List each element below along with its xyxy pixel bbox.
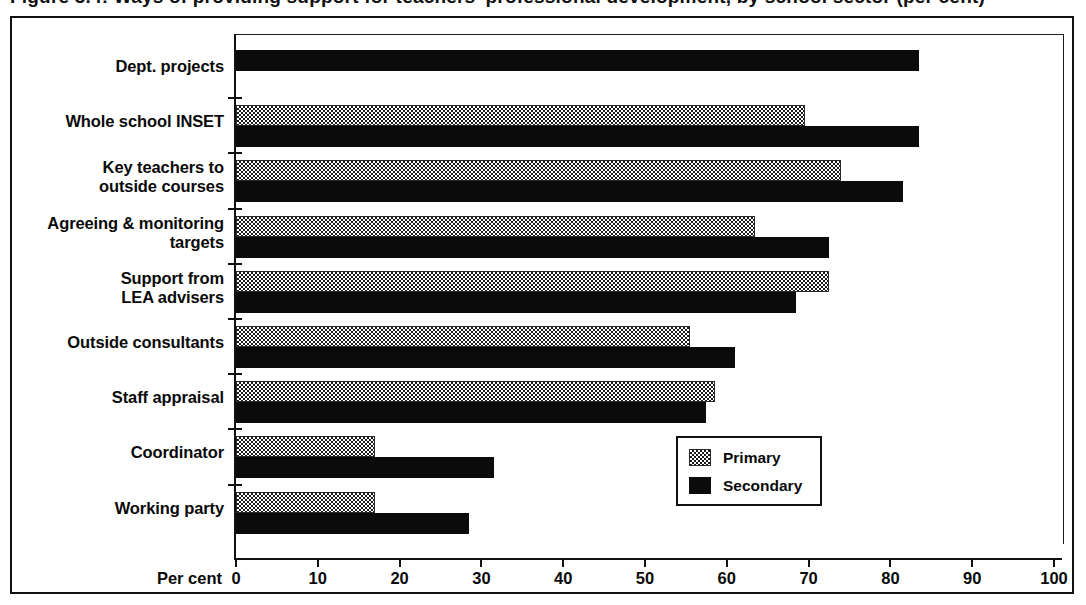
bar-group: Staff appraisal: [12, 375, 1064, 429]
x-axis-tick: [235, 558, 237, 567]
category-label: Support fromLEA advisers: [12, 269, 224, 307]
bar-group: Working party: [12, 486, 1064, 540]
bar-group: Whole school INSET: [12, 99, 1064, 153]
category-tick: [228, 97, 242, 99]
bar-group: Outside consultants: [12, 320, 1064, 374]
x-axis-tick: [808, 558, 810, 567]
category-label: Coordinator: [12, 443, 224, 462]
x-axis-tick-label: 60: [706, 569, 748, 588]
category-label: Key teachers tooutside courses: [12, 158, 224, 196]
category-label: Dept. projects: [12, 57, 224, 76]
bar-secondary: [236, 402, 706, 423]
x-axis-tick: [399, 558, 401, 567]
x-axis-tick-label: 50: [624, 569, 666, 588]
category-label-line: targets: [12, 233, 224, 252]
category-tick: [228, 208, 242, 210]
chart-legend: Primary Secondary: [676, 436, 822, 506]
x-axis-line: [234, 558, 1062, 560]
x-axis-tick: [726, 558, 728, 567]
category-label-line: Coordinator: [12, 443, 224, 462]
x-axis-tick-label: 10: [297, 569, 339, 588]
category-tick: [228, 428, 242, 430]
bar-secondary: [236, 292, 796, 313]
bar-secondary: [236, 126, 919, 147]
x-axis-tick: [889, 558, 891, 567]
bar-secondary: [236, 181, 903, 202]
x-axis-tick-label: 40: [542, 569, 584, 588]
category-label-line: Whole school INSET: [12, 112, 224, 131]
category-label: Staff appraisal: [12, 388, 224, 407]
legend-swatch-primary-icon: [689, 449, 711, 466]
category-tick: [228, 152, 242, 154]
bar-secondary: [236, 347, 735, 368]
category-label-line: Outside consultants: [12, 333, 224, 352]
category-label: Agreeing & monitoringtargets: [12, 214, 224, 252]
legend-label-primary: Primary: [723, 447, 781, 468]
x-axis-tick: [644, 558, 646, 567]
bar-primary: [236, 271, 829, 292]
bar-secondary: [236, 50, 919, 71]
x-axis-tick-label: 100: [1033, 569, 1075, 588]
x-axis-tick-label: 90: [951, 569, 993, 588]
category-label-line: LEA advisers: [12, 288, 224, 307]
bar-group: Agreeing & monitoringtargets: [12, 210, 1064, 264]
bar-primary: [236, 492, 375, 513]
x-axis-tick-label: 20: [379, 569, 421, 588]
bar-group: Key teachers tooutside courses: [12, 154, 1064, 208]
category-label: Whole school INSET: [12, 112, 224, 131]
legend-label-secondary: Secondary: [723, 475, 802, 496]
x-axis-tick-label: 80: [869, 569, 911, 588]
category-label: Working party: [12, 499, 224, 518]
category-label-line: Key teachers to: [12, 158, 224, 177]
bar-primary: [236, 105, 805, 126]
bar-primary: [236, 436, 375, 457]
x-axis-tick: [317, 558, 319, 567]
x-axis-caption: Per cent: [72, 569, 222, 588]
category-label-line: Working party: [12, 499, 224, 518]
bar-secondary: [236, 457, 494, 478]
category-label-line: outside courses: [12, 177, 224, 196]
category-label-line: Staff appraisal: [12, 388, 224, 407]
page-title: Figure 3.4: Ways of providing support fo…: [10, 0, 985, 8]
chart-frame: Dept. projectsWhole school INSETKey teac…: [10, 16, 1074, 594]
bar-secondary: [236, 513, 469, 534]
x-axis-tick: [480, 558, 482, 567]
x-axis-tick: [1053, 558, 1055, 567]
bar-secondary: [236, 237, 829, 258]
category-label: Outside consultants: [12, 333, 224, 352]
figure-title-strip: Figure 3.4: Ways of providing support fo…: [0, 0, 1086, 13]
bar-primary: [236, 326, 690, 347]
x-axis-tick-label: 30: [460, 569, 502, 588]
category-tick: [228, 373, 242, 375]
x-axis-tick: [562, 558, 564, 567]
category-tick: [228, 263, 242, 265]
bar-group: Coordinator: [12, 430, 1064, 484]
category-label-line: Agreeing & monitoring: [12, 214, 224, 233]
category-tick: [228, 484, 242, 486]
bar-group: Dept. projects: [12, 44, 1064, 98]
category-label-line: Dept. projects: [12, 57, 224, 76]
bar-primary: [236, 381, 715, 402]
category-label-line: Support from: [12, 269, 224, 288]
legend-swatch-secondary-icon: [689, 477, 711, 494]
bar-primary: [236, 216, 755, 237]
x-axis-tick-label: 70: [788, 569, 830, 588]
x-axis-tick: [971, 558, 973, 567]
bar-primary: [236, 160, 841, 181]
bar-group: Support fromLEA advisers: [12, 265, 1064, 319]
category-tick: [228, 318, 242, 320]
